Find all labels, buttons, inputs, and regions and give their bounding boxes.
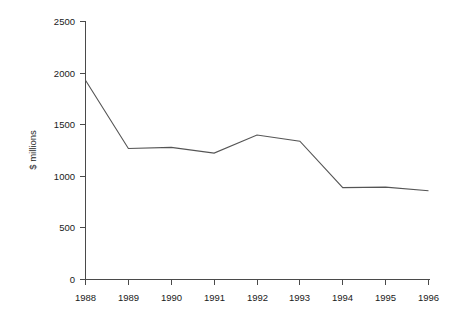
x-tick-label-1989: 1989 xyxy=(118,292,139,303)
x-tick-label-1993: 1993 xyxy=(289,292,310,303)
x-tick-label-1992: 1992 xyxy=(247,292,268,303)
y-tick-label-2000: 2000 xyxy=(54,68,75,79)
x-tick-label-1988: 1988 xyxy=(75,292,96,303)
x-tick-label-1995: 1995 xyxy=(375,292,396,303)
data-series-line xyxy=(86,80,429,190)
line-chart: 2500 2000 1500 1000 500 0 1988 1989 1990… xyxy=(0,0,457,321)
y-axis-ticks xyxy=(80,22,86,280)
chart-canvas: 2500 2000 1500 1000 500 0 1988 1989 1990… xyxy=(0,0,457,321)
y-tick-label-1000: 1000 xyxy=(54,171,75,182)
x-axis-ticks xyxy=(86,280,429,286)
y-tick-label-1500: 1500 xyxy=(54,119,75,130)
x-tick-label-1991: 1991 xyxy=(204,292,225,303)
y-tick-label-2500: 2500 xyxy=(54,16,75,27)
y-tick-label-0: 0 xyxy=(70,274,75,285)
x-axis-tick-labels: 1988 1989 1990 1991 1992 1993 1994 1995 … xyxy=(75,292,439,303)
x-tick-label-1990: 1990 xyxy=(161,292,182,303)
x-tick-label-1994: 1994 xyxy=(332,292,353,303)
y-axis-title: $ millions xyxy=(27,130,38,170)
y-axis-tick-labels: 2500 2000 1500 1000 500 0 xyxy=(54,16,75,285)
x-tick-label-1996: 1996 xyxy=(418,292,439,303)
y-tick-label-500: 500 xyxy=(59,222,75,233)
